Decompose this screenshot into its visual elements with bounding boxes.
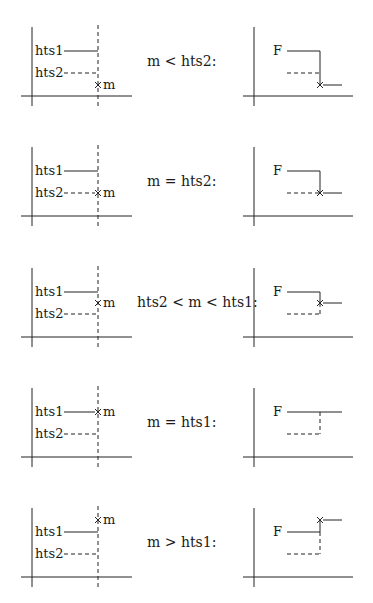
hts2-label: hts2 bbox=[35, 65, 64, 80]
output-graph: F bbox=[243, 508, 353, 587]
hts1-label: hts1 bbox=[35, 43, 64, 58]
function-label: F bbox=[273, 284, 282, 299]
panel-m-equals-hts1: hts1hts2mm = hts1:F bbox=[21, 386, 353, 467]
input-graph: hts1hts2m bbox=[21, 266, 132, 347]
measurement-label: m bbox=[103, 512, 115, 527]
output-graph: F bbox=[243, 27, 353, 106]
hts1-label: hts1 bbox=[35, 524, 64, 539]
hts1-label: hts1 bbox=[35, 284, 64, 299]
panel-m-above-hts1: hts1hts2mm > hts1:F bbox=[21, 506, 353, 587]
measurement-label: m bbox=[103, 185, 115, 200]
panel-m-equals-hts2: hts1hts2mm = hts2:F bbox=[21, 145, 353, 226]
measurement-label: m bbox=[103, 77, 115, 92]
hts2-label: hts2 bbox=[35, 185, 64, 200]
condition-label: m = hts1: bbox=[147, 414, 216, 430]
input-graph: hts1hts2m bbox=[21, 25, 132, 106]
threshold-diagram: hts1hts2mm < hts2:Fhts1hts2mm = hts2:Fht… bbox=[0, 0, 373, 603]
input-graph: hts1hts2m bbox=[21, 386, 132, 467]
hts2-label: hts2 bbox=[35, 426, 64, 441]
condition-label: m > hts1: bbox=[147, 534, 216, 550]
input-graph: hts1hts2m bbox=[21, 145, 132, 226]
output-graph: F bbox=[243, 268, 353, 347]
measurement-label: m bbox=[103, 404, 115, 419]
hts1-label: hts1 bbox=[35, 163, 64, 178]
measurement-label: m bbox=[103, 295, 115, 310]
condition-label: m = hts2: bbox=[147, 173, 216, 189]
hts2-label: hts2 bbox=[35, 546, 64, 561]
condition-label: m < hts2: bbox=[147, 53, 216, 69]
function-label: F bbox=[273, 524, 282, 539]
measurement-marker bbox=[95, 300, 101, 306]
function-label: F bbox=[273, 43, 282, 58]
panel-m-between: hts1hts2mhts2 < m < hts1:F bbox=[21, 266, 353, 347]
input-graph: hts1hts2m bbox=[21, 506, 132, 587]
function-label: F bbox=[273, 163, 282, 178]
panel-m-below-hts2: hts1hts2mm < hts2:F bbox=[21, 25, 353, 106]
hts1-label: hts1 bbox=[35, 404, 64, 419]
condition-label: hts2 < m < hts1: bbox=[137, 294, 258, 310]
output-graph: F bbox=[243, 147, 353, 226]
hts2-label: hts2 bbox=[35, 306, 64, 321]
function-label: F bbox=[273, 404, 282, 419]
output-graph: F bbox=[243, 388, 353, 467]
